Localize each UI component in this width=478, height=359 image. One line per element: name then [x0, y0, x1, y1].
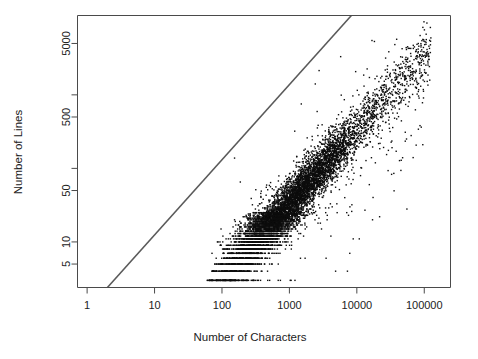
data-point	[327, 180, 328, 181]
data-point	[273, 189, 274, 190]
data-point	[237, 233, 238, 234]
data-point	[262, 215, 263, 216]
data-point	[399, 82, 400, 83]
data-point	[286, 245, 287, 246]
data-point	[250, 235, 251, 236]
data-point	[325, 130, 326, 131]
data-point	[420, 58, 421, 59]
data-point	[415, 78, 416, 79]
data-point	[282, 228, 283, 229]
data-point	[293, 201, 294, 202]
data-point	[430, 44, 431, 45]
data-point	[253, 238, 254, 239]
data-point	[270, 206, 271, 207]
data-point	[296, 224, 297, 225]
data-point	[327, 186, 328, 187]
data-point	[264, 219, 265, 220]
data-point	[366, 107, 367, 108]
data-point	[345, 148, 346, 149]
data-point	[321, 172, 322, 173]
data-point	[279, 253, 280, 254]
data-point	[308, 210, 309, 211]
data-point	[279, 224, 280, 225]
data-point	[248, 213, 249, 214]
data-point	[326, 157, 327, 158]
data-point	[395, 84, 396, 85]
data-point	[342, 117, 343, 118]
data-point	[353, 154, 354, 155]
data-point	[281, 221, 282, 222]
data-point	[394, 72, 395, 73]
data-point	[316, 154, 317, 155]
data-point	[282, 230, 283, 231]
data-point	[278, 226, 279, 227]
data-point	[278, 228, 279, 229]
data-point	[347, 143, 348, 144]
data-point	[230, 245, 231, 246]
data-point	[270, 235, 271, 236]
data-point	[390, 93, 391, 94]
data-point	[429, 66, 430, 67]
data-point	[258, 212, 259, 213]
data-point	[299, 170, 300, 171]
data-point	[258, 210, 259, 211]
data-point	[252, 228, 253, 229]
data-point	[278, 224, 279, 225]
data-point	[311, 185, 312, 186]
data-point	[380, 117, 381, 118]
data-point	[233, 238, 234, 239]
data-point	[418, 97, 419, 98]
data-point	[357, 113, 358, 114]
data-point	[318, 196, 319, 197]
data-point	[350, 119, 351, 120]
data-point	[290, 210, 291, 211]
data-point	[337, 177, 338, 178]
data-point	[365, 160, 366, 161]
data-point	[285, 248, 286, 249]
data-point	[404, 66, 405, 67]
data-point	[227, 263, 228, 264]
data-point	[363, 74, 364, 75]
data-point	[305, 183, 306, 184]
data-point	[218, 280, 219, 281]
data-point	[328, 127, 329, 128]
data-point	[248, 253, 249, 254]
data-point	[377, 136, 378, 137]
data-point	[322, 166, 323, 167]
data-point	[328, 148, 329, 149]
data-point	[381, 94, 382, 95]
data-point	[388, 112, 389, 113]
data-point	[368, 107, 369, 108]
data-point	[272, 248, 273, 249]
data-point	[262, 221, 263, 222]
data-point	[341, 154, 342, 155]
data-point	[339, 167, 340, 168]
data-point	[335, 270, 336, 271]
data-point	[287, 238, 288, 239]
data-point	[372, 146, 373, 147]
data-point	[427, 61, 428, 62]
data-point	[303, 215, 304, 216]
data-point	[282, 185, 283, 186]
data-point	[361, 133, 362, 134]
data-point	[294, 216, 295, 217]
data-point	[310, 145, 311, 146]
data-point	[407, 75, 408, 76]
data-point	[309, 188, 310, 189]
data-point	[301, 205, 302, 206]
data-point	[356, 134, 357, 135]
data-point	[387, 69, 388, 70]
data-point	[280, 219, 281, 220]
data-point	[356, 148, 357, 149]
data-point	[417, 56, 418, 57]
data-point	[276, 215, 277, 216]
data-point	[321, 149, 322, 150]
data-point	[317, 193, 318, 194]
data-point	[347, 152, 348, 153]
data-point	[293, 221, 294, 222]
data-point	[249, 258, 250, 259]
data-point	[311, 188, 312, 189]
data-point	[299, 185, 300, 186]
data-point	[303, 218, 304, 219]
data-point	[346, 149, 347, 150]
